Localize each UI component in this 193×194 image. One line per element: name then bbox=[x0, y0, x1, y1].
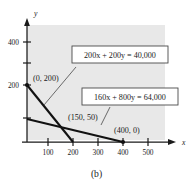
figure-container: 400 200 100 200 300 400 500 y x 200x + 2… bbox=[0, 0, 193, 194]
x-tick-label-300: 300 bbox=[92, 148, 103, 157]
x-tick-label-500: 500 bbox=[142, 148, 153, 157]
coordinate-plot: 400 200 100 200 300 400 500 y x 200x + 2… bbox=[0, 0, 193, 194]
x-tick-label-400: 400 bbox=[117, 148, 128, 157]
equation-1-text: 200x + 200y = 40,000 bbox=[84, 51, 156, 60]
y-tick-label-400: 400 bbox=[8, 38, 19, 47]
equation-box-2: 160x + 800y = 64,000 bbox=[82, 88, 178, 105]
y-axis-name: y bbox=[33, 9, 38, 18]
x-tick-label-200: 200 bbox=[67, 148, 78, 157]
equation-box-1: 200x + 200y = 40,000 bbox=[72, 46, 168, 63]
figure-caption: (b) bbox=[0, 168, 193, 179]
x-tick-label-100: 100 bbox=[42, 148, 53, 157]
equation-2-text: 160x + 800y = 64,000 bbox=[94, 93, 166, 102]
x-axis-name: x bbox=[181, 138, 186, 147]
point-label-150-50: (150, 50) bbox=[68, 113, 98, 122]
point-label-400-0: (400, 0) bbox=[114, 126, 140, 135]
vertex-marker-0-200 bbox=[25, 83, 29, 87]
y-tick-label-200: 200 bbox=[8, 81, 19, 90]
vertex-marker-400-0 bbox=[121, 140, 125, 144]
point-label-0-200: (0, 200) bbox=[33, 74, 59, 83]
